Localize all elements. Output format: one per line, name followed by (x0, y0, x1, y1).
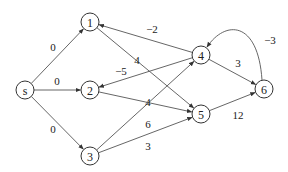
node-label: s (23, 84, 28, 98)
edge-weight-2-to-5: 4 (145, 96, 151, 108)
edges (31, 25, 262, 153)
edge-4-to-6 (209, 59, 256, 84)
edge-weight-4-to-1: −2 (146, 23, 158, 35)
node-4: 4 (192, 46, 210, 64)
node-label: 6 (261, 83, 267, 97)
edge-weight-4-to-2: −5 (115, 65, 127, 77)
edge-weight-5-to-6: 12 (233, 109, 244, 121)
node-s: s (16, 81, 34, 99)
edge-weight-6-to-4: −3 (264, 34, 276, 46)
edge-5-to-6 (209, 93, 255, 111)
edge-weight-3-to-5: 3 (145, 140, 151, 152)
node-label: 3 (87, 150, 93, 164)
node-6: 6 (255, 80, 273, 98)
node-label: 5 (198, 108, 204, 122)
node-5: 5 (192, 105, 210, 123)
edge-weight-1-to-5: 4 (134, 54, 140, 66)
edge-s-to-3 (31, 96, 83, 149)
graph-diagram: 0004−2−54633−312 s123456 (0, 0, 288, 172)
edge-weight-s-to-1: 0 (50, 41, 56, 53)
edge-weight-3-to-4: 6 (145, 118, 151, 130)
node-1: 1 (81, 13, 99, 31)
edge-weight-s-to-3: 0 (50, 123, 56, 135)
node-3: 3 (81, 147, 99, 165)
edge-6-to-4 (207, 30, 262, 80)
node-label: 1 (87, 16, 93, 30)
node-label: 4 (198, 49, 204, 63)
node-2: 2 (81, 81, 99, 99)
edge-weight-4-to-6: 3 (235, 57, 241, 69)
edge-4-to-2 (99, 58, 192, 87)
edge-weight-s-to-2: 0 (54, 75, 60, 87)
node-label: 2 (87, 84, 93, 98)
